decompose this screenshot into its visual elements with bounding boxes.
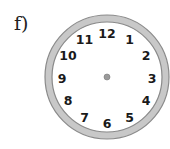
clock-number-4: 4 bbox=[142, 93, 151, 108]
clock-number-10: 10 bbox=[59, 48, 77, 63]
clock-number-11: 11 bbox=[76, 32, 93, 47]
clock-face: 121234567891011 bbox=[0, 0, 170, 149]
clock-number-6: 6 bbox=[103, 116, 112, 131]
clock-number-2: 2 bbox=[142, 48, 151, 63]
clock-number-8: 8 bbox=[64, 93, 73, 108]
clock-number-12: 12 bbox=[98, 26, 115, 41]
center-pivot-icon bbox=[104, 74, 110, 80]
clock-number-5: 5 bbox=[125, 110, 134, 125]
clock-number-1: 1 bbox=[125, 32, 134, 47]
clock-number-9: 9 bbox=[58, 71, 67, 86]
clock-number-7: 7 bbox=[80, 110, 89, 125]
clock-number-3: 3 bbox=[148, 71, 157, 86]
